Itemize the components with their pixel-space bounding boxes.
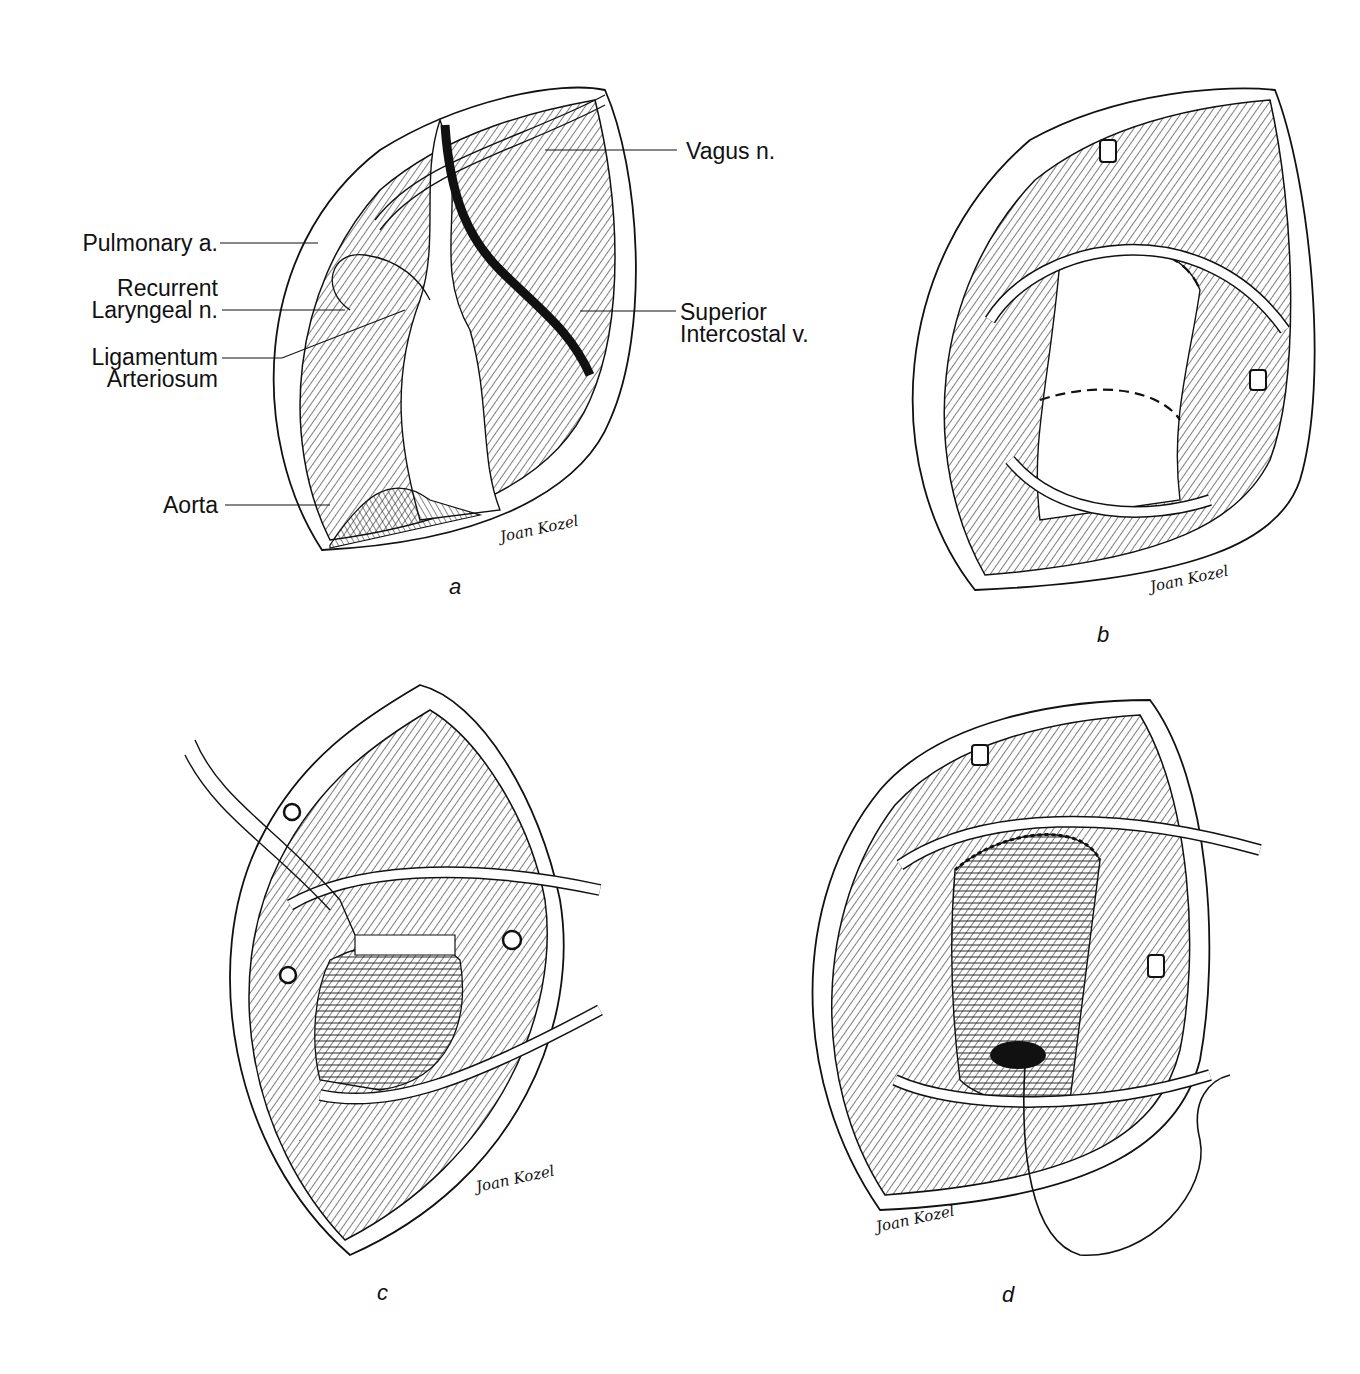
label-aorta: Aorta (40, 495, 218, 515)
label-intercostal-vein: Intercostal v. (680, 324, 809, 344)
label-arteriosum: Arteriosum (40, 369, 218, 389)
illustration-canvas (0, 0, 1360, 1374)
panel-a-drawing (220, 88, 677, 551)
panel-b-drawing (913, 88, 1315, 590)
panel-d-drawing (813, 700, 1261, 1255)
label-superior: Superior (680, 302, 767, 322)
panel-letter-b: b (1097, 622, 1109, 648)
panel-letter-c: c (377, 1280, 388, 1306)
label-vagus-nerve: Vagus n. (686, 141, 775, 161)
label-laryngeal-nerve: Laryngeal n. (40, 300, 218, 320)
label-pulmonary-artery: Pulmonary a. (40, 233, 218, 253)
label-ligamentum: Ligamentum (40, 347, 218, 367)
panel-letter-a: a (449, 574, 461, 600)
panel-letter-d: d (1002, 1282, 1014, 1308)
label-recurrent: Recurrent (40, 278, 218, 298)
